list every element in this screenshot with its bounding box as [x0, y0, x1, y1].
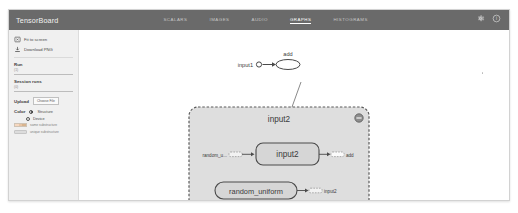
color-label: Color [14, 109, 25, 114]
run-count: (1) [14, 68, 73, 72]
row1-target-label: add [346, 153, 354, 158]
tab-graphs[interactable]: GRAPHS [290, 17, 312, 24]
group-title-input2: input2 [268, 115, 291, 124]
tensorboard-window: TensorBoard SCALARS IMAGES AUDIO GRAPHS … [8, 9, 510, 201]
color-structure-label: Structure [37, 110, 52, 114]
input1-node[interactable] [256, 62, 261, 67]
session-runs-count: (0) [14, 85, 73, 89]
node-input2-label: input2 [276, 150, 299, 159]
multicolor-swatch-icon [14, 123, 27, 127]
tab-histograms[interactable]: HISTOGRAMS [333, 17, 367, 23]
color-device-radio[interactable] [26, 117, 30, 121]
input1-label: input1 [238, 62, 253, 68]
sidebar-divider-1 [14, 57, 73, 58]
graph-canvas[interactable]: input1 add input2 random_u... input2 [79, 30, 509, 200]
tab-images[interactable]: IMAGES [209, 17, 229, 23]
node-random-uniform-label: random_uniform [229, 187, 283, 196]
fit-to-screen-label: Fit to screen [24, 37, 47, 42]
run-select-underline[interactable] [14, 74, 73, 75]
minus-circle-icon[interactable] [355, 114, 363, 122]
legend-same-substructure-label: same substructure [30, 123, 57, 127]
upload-field: Upload Choose File [9, 95, 78, 107]
nav-tabs: SCALARS IMAGES AUDIO GRAPHS HISTOGRAMS [163, 17, 367, 24]
gear-icon[interactable] [476, 14, 485, 23]
run-label: Run [14, 62, 73, 67]
graph-svg: input1 add input2 random_u... input2 [79, 30, 509, 200]
legend-unique-substructure-label: unique substructure [30, 130, 59, 134]
add-node-label: add [283, 51, 292, 57]
fit-to-screen-icon [14, 36, 21, 43]
help-icon[interactable]: i [492, 14, 501, 23]
tab-audio[interactable]: AUDIO [251, 17, 267, 23]
tab-scalars[interactable]: SCALARS [163, 17, 187, 23]
row1-source-stub[interactable] [229, 152, 242, 157]
session-runs-select-underline[interactable] [14, 91, 73, 92]
edge-group-to-add [292, 82, 301, 107]
gray-swatch-icon [14, 130, 27, 134]
upload-label: Upload [14, 99, 29, 104]
choose-file-button[interactable]: Choose File [33, 97, 59, 105]
color-field: Color Structure [9, 107, 78, 116]
session-runs-field[interactable]: Session runs (0) [9, 78, 78, 95]
svg-text:i: i [496, 16, 497, 21]
session-runs-label: Session runs [14, 79, 73, 84]
row1-source-label: random_u... [202, 153, 227, 158]
app-brand: TensorBoard [16, 16, 58, 25]
top-bar-icons: i [476, 14, 501, 23]
download-png-action[interactable]: Download PNG [9, 44, 78, 54]
row2-target-label: input2 [324, 189, 337, 194]
run-field[interactable]: Run (1) [9, 61, 78, 78]
color-device-label: Device [33, 117, 45, 121]
canvas-dot-marker [482, 72, 484, 74]
download-icon [14, 46, 21, 53]
top-bar: TensorBoard SCALARS IMAGES AUDIO GRAPHS … [9, 10, 509, 30]
download-png-label: Download PNG [24, 47, 53, 52]
graph-sidebar: Fit to screen Download PNG Run (1) Sessi… [9, 30, 79, 200]
add-node[interactable] [276, 60, 300, 70]
row1-target-stub[interactable] [331, 152, 344, 157]
color-structure-radio[interactable] [29, 110, 33, 114]
legend-unique-substructure: unique substructure [9, 128, 78, 134]
row2-target-stub[interactable] [309, 188, 322, 193]
fit-to-screen-action[interactable]: Fit to screen [9, 34, 78, 44]
edge-input1-arrowhead [272, 62, 276, 67]
